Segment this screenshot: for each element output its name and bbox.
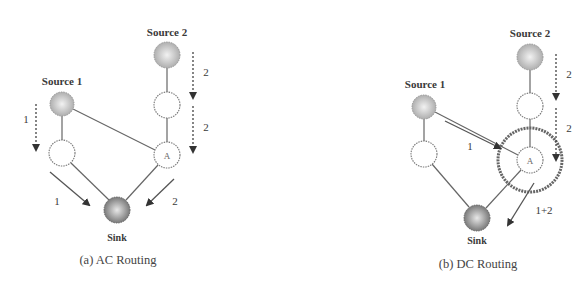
source1-node	[50, 92, 74, 116]
flow-label-s1-to-a: 1	[467, 140, 473, 152]
flow-arrow-a-out	[508, 183, 534, 225]
source1-label: Source 1	[42, 75, 82, 87]
link-nodeA-sink	[126, 165, 158, 200]
caption-ac-routing: (a) AC Routing	[79, 253, 156, 268]
flow-label-s2-lower: 2	[203, 121, 209, 133]
node-a-label: A	[164, 151, 171, 161]
link-source1-nodeA	[435, 112, 518, 155]
relay-node-source2	[154, 92, 180, 118]
flow-arrow-to-sink-right	[147, 179, 174, 205]
caption-dc-routing: (b) DC Routing	[439, 257, 517, 272]
flow-label-s1-down: 1	[23, 113, 29, 125]
link-source1-nodeA	[73, 109, 155, 150]
source1-node	[412, 95, 436, 119]
node-a-label: A	[527, 156, 534, 166]
panel-dc-routing	[411, 44, 562, 231]
sink-label: Sink	[467, 235, 486, 246]
flow-label-to-sink-left: 1	[54, 195, 60, 207]
source2-label: Source 2	[510, 27, 550, 39]
source2-node	[154, 42, 180, 68]
sink-node	[464, 205, 490, 231]
flow-label-s2-lower: 2	[566, 122, 572, 134]
relay-node-source2	[517, 93, 543, 119]
relay-node-source1	[49, 140, 75, 166]
routing-diagram	[0, 0, 584, 284]
sink-node	[104, 197, 130, 223]
link-relay1-sink	[432, 164, 469, 207]
source2-node	[517, 44, 543, 70]
flow-label-s2-upper: 2	[203, 66, 209, 78]
source2-label: Source 2	[147, 26, 187, 38]
flow-label-to-sink-right: 2	[172, 195, 178, 207]
sink-label: Sink	[107, 232, 126, 243]
relay-node-source1	[411, 141, 437, 167]
flow-label-a-out: 1+2	[535, 204, 552, 216]
source1-label: Source 1	[405, 78, 445, 90]
flow-label-s2-upper: 2	[566, 68, 572, 80]
